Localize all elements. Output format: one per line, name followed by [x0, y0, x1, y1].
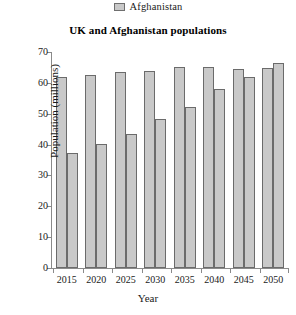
- bar-afghanistan-2050: [273, 63, 284, 268]
- bar-afghanistan-2045: [244, 77, 255, 268]
- bar-afghanistan-2020: [96, 144, 107, 268]
- bar-afghanistan-2035: [185, 107, 196, 268]
- x-axis-tick-label: 2035: [175, 275, 195, 285]
- x-axis-tick-label: 2015: [57, 275, 77, 285]
- plot-area: 010203040506070 201520202025203020352040…: [52, 52, 288, 268]
- chart-title: UK and Afghanistan populations: [0, 24, 296, 36]
- x-axis-tick: [171, 268, 172, 273]
- bar-uk-2040: [203, 67, 214, 268]
- x-axis-line: [51, 268, 288, 269]
- y-axis-tick-label: 30: [38, 170, 48, 180]
- x-axis-tick-label: 2030: [145, 275, 165, 285]
- x-axis-tick-label: 2025: [116, 275, 136, 285]
- x-axis-tick: [53, 268, 54, 273]
- x-axis-tick: [230, 268, 231, 273]
- x-axis-tick-label: 2050: [263, 275, 283, 285]
- legend-item-label: Afghanistan: [130, 2, 183, 13]
- chart-legend: Afghanistan: [0, 2, 296, 13]
- bar-uk-2035: [174, 67, 185, 268]
- x-axis-tick-label: 2040: [204, 275, 224, 285]
- x-axis-tick-label: 2020: [86, 275, 106, 285]
- x-axis-tick: [83, 268, 84, 273]
- y-axis-tick-label: 20: [38, 201, 48, 211]
- bar-afghanistan-2015: [67, 153, 78, 268]
- y-axis-title: Population (millions): [48, 51, 60, 171]
- bar-afghanistan-2040: [214, 89, 225, 268]
- bar-uk-2025: [115, 72, 126, 268]
- y-axis-tick-label: 60: [38, 78, 48, 88]
- bar-uk-2045: [233, 69, 244, 268]
- bar-uk-2020: [85, 75, 96, 268]
- x-axis-tick-label: 2045: [234, 275, 254, 285]
- x-axis-tick: [142, 268, 143, 273]
- y-axis-tick-label: 70: [38, 47, 48, 57]
- x-axis-tick: [260, 268, 261, 273]
- y-axis-tick-label: 10: [38, 232, 48, 242]
- x-axis-tick: [201, 268, 202, 273]
- x-axis-title: Year: [0, 292, 296, 304]
- y-axis-tick-label: 50: [38, 109, 48, 119]
- bar-uk-2030: [144, 71, 155, 268]
- legend-swatch-icon: [114, 3, 125, 11]
- bar-afghanistan-2030: [155, 119, 166, 268]
- y-axis-tick-label: 0: [43, 263, 48, 273]
- x-axis-tick: [288, 268, 289, 273]
- bar-afghanistan-2025: [126, 134, 137, 268]
- y-axis-tick-label: 40: [38, 140, 48, 150]
- bar-uk-2050: [262, 68, 273, 268]
- x-axis-tick: [112, 268, 113, 273]
